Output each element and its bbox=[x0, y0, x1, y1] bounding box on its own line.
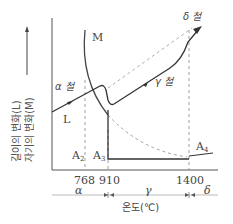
arrow-up-icon bbox=[25, 26, 29, 32]
alpha-direction-arrow-icon bbox=[67, 101, 73, 105]
phase-gamma-label: γ bbox=[145, 185, 152, 196]
phase-alpha-label: α bbox=[75, 185, 82, 196]
x-tick-1400: 1400 bbox=[176, 175, 204, 186]
magnetic-curve-dashed bbox=[108, 115, 187, 157]
arrow-right-icon bbox=[185, 193, 189, 197]
arrow-left-icon bbox=[191, 193, 195, 197]
x-tick-910: 910 bbox=[99, 175, 120, 186]
phase-delta-label: δ bbox=[204, 185, 211, 196]
gamma-iron-label: γ 철 bbox=[155, 77, 173, 87]
alpha-iron-label: α 철 bbox=[55, 82, 74, 92]
a2-label: A2 bbox=[72, 150, 84, 163]
y-axis-label-magnetic: 자기의 변화(M) bbox=[25, 97, 35, 162]
arrow-right-icon bbox=[104, 193, 108, 197]
magnetic-curve-label: M bbox=[92, 32, 103, 43]
y-axis-label-length: 길이의 변화(L) bbox=[12, 100, 22, 162]
arrow-heading-icon bbox=[193, 26, 202, 34]
delta-iron-label: δ 철 bbox=[183, 12, 201, 22]
x-axis-title: 온도(℃) bbox=[122, 203, 159, 213]
a4-label: A4 bbox=[196, 141, 208, 154]
a3-label: A3 bbox=[93, 150, 105, 163]
length-curve bbox=[52, 30, 198, 112]
magnetic-step-line bbox=[108, 110, 189, 159]
length-curve-label: L bbox=[63, 114, 70, 125]
arrow-left-icon bbox=[110, 193, 114, 197]
